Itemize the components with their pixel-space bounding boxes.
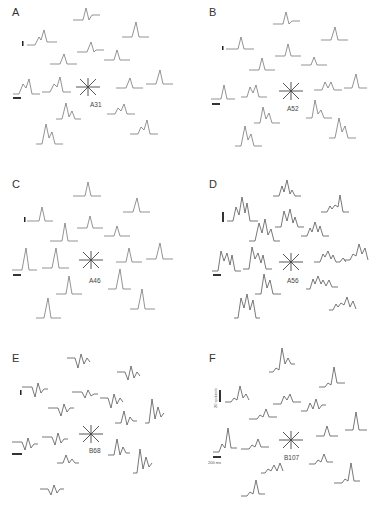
panel-e: E B68 bbox=[0, 340, 189, 509]
cell-label: A56 bbox=[287, 277, 299, 284]
cell-label: B107 bbox=[284, 454, 299, 461]
panel-c: C A46 bbox=[0, 170, 189, 340]
psth-traces bbox=[0, 0, 189, 170]
direction-star-icon bbox=[279, 253, 303, 271]
cell-label: A52 bbox=[287, 105, 299, 112]
panel-d: D A56 bbox=[189, 170, 378, 340]
panel-a: A A31 bbox=[0, 0, 189, 170]
direction-star-icon bbox=[79, 251, 103, 269]
panel-f: F 20 spikes/s 200 ms B107 bbox=[189, 340, 378, 509]
panel-b: B A52 bbox=[189, 0, 378, 170]
direction-star-icon bbox=[76, 78, 100, 96]
vertical-scale-bar bbox=[219, 390, 221, 402]
direction-star-icon bbox=[279, 431, 303, 449]
psth-traces bbox=[0, 340, 189, 509]
psth-traces bbox=[189, 0, 378, 170]
cell-label: A31 bbox=[90, 101, 102, 108]
psth-traces bbox=[189, 170, 378, 340]
direction-star-icon bbox=[279, 82, 303, 100]
psth-traces bbox=[189, 340, 378, 509]
psth-traces bbox=[0, 170, 189, 340]
cell-label: B68 bbox=[89, 447, 101, 454]
direction-star-icon bbox=[79, 425, 103, 443]
cell-label: A46 bbox=[89, 277, 101, 284]
horizontal-scale-bar bbox=[213, 456, 221, 458]
vertical-scale-label: 20 spikes/s bbox=[213, 388, 218, 408]
horizontal-scale-label: 200 ms bbox=[208, 460, 221, 465]
